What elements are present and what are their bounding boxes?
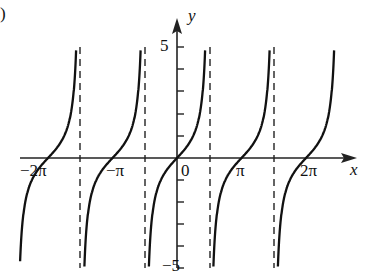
plot: [0, 0, 367, 271]
y-axis-label: y: [188, 6, 196, 26]
x-tick-pi: π: [236, 161, 245, 181]
x-tick-2pi: 2π: [300, 161, 317, 181]
x-tick-negpi: −π: [106, 161, 124, 181]
x-axis-label: x: [350, 160, 358, 180]
tangent-branch: [20, 50, 76, 261]
y-tick-neg5: −5: [162, 256, 180, 271]
x-tick-neg2pi: −2π: [20, 161, 47, 181]
panel-label: ): [0, 4, 6, 24]
x-tick-zero: 0: [181, 161, 190, 181]
y-tick-5: 5: [160, 36, 169, 56]
